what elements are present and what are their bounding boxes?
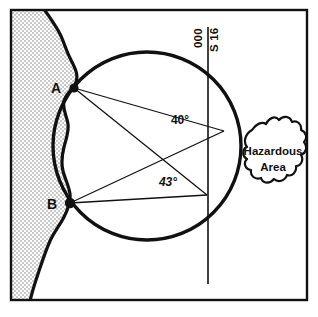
bearing-label-s16: S 16: [208, 28, 220, 52]
station-point-b-dot: [65, 198, 75, 208]
station-point-a-dot: [69, 83, 78, 92]
navigation-diagram-figure: Hazardous Area A B 40° 43° 000 S 16: [0, 0, 318, 317]
station-point-b-label: B: [47, 196, 57, 212]
angle-label-43: 43°: [158, 175, 177, 189]
hazardous-area-label-line2: Area: [260, 161, 286, 173]
hazardous-area-label-line1: Hazardous: [244, 145, 303, 157]
bearing-label-000: 000: [192, 28, 204, 48]
diagram-canvas: Hazardous Area A B 40° 43° 000 S 16: [0, 0, 318, 317]
angle-label-40: 40°: [171, 113, 189, 127]
station-point-a-label: A: [51, 80, 61, 96]
